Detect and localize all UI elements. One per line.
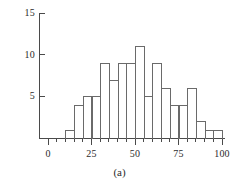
figure-caption: (a) [0,166,239,179]
histogram-bar [213,130,223,139]
histogram-figure: 51015 0255075100 (a) [0,0,239,192]
histogram-bars [0,0,239,192]
